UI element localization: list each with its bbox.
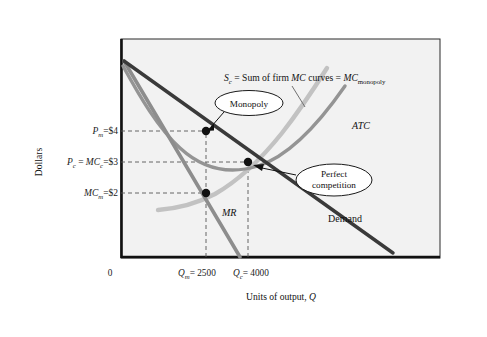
legend-equals-1: = xyxy=(232,72,242,83)
legend-text-2: curves xyxy=(306,72,334,83)
x-axis-title-plain: Units of output, xyxy=(246,291,309,302)
legend-text-1: Sum of firm xyxy=(242,72,291,83)
marker-monopoly-mr-mc xyxy=(202,189,210,197)
y-axis-title: Dollars xyxy=(33,148,44,177)
label-atc: ATC xyxy=(351,120,370,131)
legend-mc-italic-2: MC xyxy=(342,72,358,83)
chart-canvas: Monopoly Perfect competition Sc = Sum of… xyxy=(0,0,487,337)
callout-competition-label-line2: competition xyxy=(312,180,356,190)
label-mr: MR xyxy=(221,207,236,218)
ytick-monopoly-price: Pm=$4 xyxy=(91,126,118,138)
xtick-qc-value: = 4000 xyxy=(243,268,270,278)
origin-label: 0 xyxy=(108,268,113,278)
legend-equals-2: = xyxy=(333,72,343,83)
label-demand: Demand xyxy=(328,213,362,224)
ytick-pm-value: =$4 xyxy=(103,126,118,136)
callout-competition-label-line1: Perfect xyxy=(321,169,347,179)
ytick-mcc-symbol: MC xyxy=(85,157,101,167)
ytick-pc-equals: = xyxy=(76,157,86,167)
x-axis-title-italic: Q xyxy=(309,291,316,302)
x-axis-title: Units of output, Q xyxy=(246,291,316,302)
legend-mc-subscript: monopoly xyxy=(358,78,386,85)
marker-competitive-equilibrium xyxy=(244,158,252,166)
xtick-qm-value: = 2500 xyxy=(190,268,217,278)
xtick-competitive-quantity: Qc= 4000 xyxy=(233,268,269,280)
ytick-mcm-symbol: MC xyxy=(83,188,99,198)
xtick-monopoly-quantity: Qm= 2500 xyxy=(178,268,216,280)
ytick-mcm-value: =$2 xyxy=(103,188,118,198)
economics-chart-figure: Monopoly Perfect competition Sc = Sum of… xyxy=(0,0,487,337)
legend-mc-italic: MC xyxy=(290,72,306,83)
ytick-pc-value: =$3 xyxy=(103,157,118,167)
callout-monopoly-label: Monopoly xyxy=(230,99,269,109)
